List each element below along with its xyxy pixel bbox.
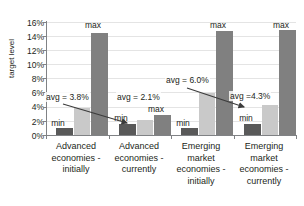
bar-avg-g0	[74, 108, 90, 135]
y-tick-label-4: 4%	[4, 102, 44, 112]
bar-max-g0	[91, 33, 108, 135]
cat1-line3: currently	[107, 164, 171, 176]
x-tick-mark	[234, 135, 235, 139]
y-tick-label-0: 0%	[4, 131, 44, 141]
x-tick-mark	[46, 135, 47, 139]
bar-label-min-g3: min	[236, 113, 256, 123]
bar-min-g1	[119, 124, 136, 135]
y-tick-label-8: 8%	[4, 74, 44, 84]
annotation-avg-g0: avg = 3.8%	[45, 92, 90, 102]
x-tick-mark	[296, 135, 297, 139]
gridline	[47, 64, 296, 65]
x-category-label-3: Emerging market economies - currently	[232, 141, 296, 187]
annotation-avg-g1: avg = 2.1%	[116, 92, 161, 102]
cat3-line2: market	[232, 153, 296, 165]
y-tick-label-6: 6%	[4, 88, 44, 98]
bar-label-max-g3: max	[271, 20, 291, 30]
bar-max-g3	[279, 30, 296, 135]
cat2-line2: market	[169, 153, 233, 165]
cat1-line1: Advanced	[107, 141, 171, 153]
bar-max-g2	[216, 31, 233, 135]
y-tick-label-14: 14%	[4, 32, 44, 42]
x-category-label-2: Emerging market economies - initially	[169, 141, 233, 187]
cat0-line2: economies -	[44, 153, 108, 165]
cat2-line3: economies -	[169, 164, 233, 176]
bar-max-g1	[154, 115, 171, 135]
cat1-line2: economies -	[107, 153, 171, 165]
gridline	[47, 36, 296, 37]
bar-label-min-g2: min	[173, 118, 193, 128]
bar-label-max-g2: max	[208, 20, 228, 30]
cat2-line4: initially	[169, 176, 233, 188]
bar-label-min-g0: min	[48, 118, 68, 128]
bar-avg-g3	[262, 105, 278, 135]
bar-label-max-g1: max	[146, 104, 166, 114]
x-category-label-0: Advanced economies - initially	[44, 141, 108, 176]
cat3-line4: currently	[232, 176, 296, 188]
bar-min-g2	[181, 128, 198, 135]
bar-avg-g1	[137, 120, 153, 135]
cat3-line1: Emerging	[232, 141, 296, 153]
annotation-avg-g2: avg = 6.0%	[165, 75, 210, 85]
cat0-line3: initially	[44, 164, 108, 176]
bar-label-min-g1: min	[111, 113, 131, 123]
cat0-line1: Advanced	[44, 141, 108, 153]
bar-label-max-g0: max	[83, 20, 103, 30]
annotation-avg-g3: avg =4.3%	[229, 91, 271, 101]
x-tick-mark	[171, 135, 172, 139]
cat3-line3: economies -	[232, 164, 296, 176]
bar-avg-g2	[199, 93, 215, 135]
y-tick-label-12: 12%	[4, 46, 44, 56]
y-tick-label-16: 16%	[4, 18, 44, 28]
y-tick-label-2: 2%	[4, 117, 44, 127]
y-axis-line	[46, 21, 47, 136]
x-tick-mark	[109, 135, 110, 139]
bar-chart: target level 16% 14% 12% 10% 8% 6% 4% 2%…	[0, 0, 304, 206]
cat2-line1: Emerging	[169, 141, 233, 153]
gridline	[47, 50, 296, 51]
bar-min-g3	[244, 124, 261, 135]
y-tick-label-10: 10%	[4, 60, 44, 70]
bar-min-g0	[56, 128, 73, 135]
x-category-label-1: Advanced economies - currently	[107, 141, 171, 176]
